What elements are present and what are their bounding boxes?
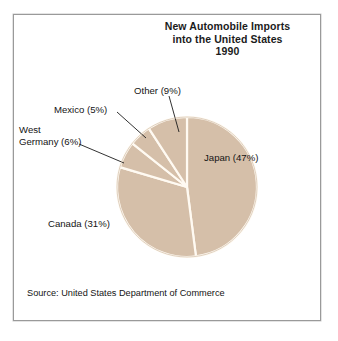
pie-label-west-germany-line-1: West	[19, 124, 41, 135]
pie-slices	[117, 117, 257, 257]
pie-chart-graphic	[13, 14, 321, 321]
pie-label-japan: Japan (47%)	[204, 152, 258, 164]
pie-label-mexico: Mexico (5%)	[54, 104, 107, 116]
pie-slice-japan	[187, 117, 257, 256]
pie-label-other: Other (9%)	[134, 85, 181, 97]
leader-line-mexico	[117, 112, 146, 138]
chart-figure: New Automobile Imports into the United S…	[0, 0, 338, 341]
pie-label-west-germany-line-2: Germany (6%)	[19, 136, 81, 147]
pie-label-canada: Canada (31%)	[48, 218, 110, 230]
pie-label-west-germany: West Germany (6%)	[19, 124, 105, 147]
source-note: Source: United States Department of Comm…	[27, 288, 225, 298]
